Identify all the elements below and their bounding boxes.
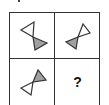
cell-bottom-left — [10, 59, 55, 105]
bowtie-icon — [13, 62, 53, 102]
cell-bottom-right: ? — [55, 59, 100, 105]
bowtie-icon — [13, 16, 53, 56]
cell-top-left — [10, 13, 55, 59]
stray-mark — [18, 0, 20, 2]
cell-top-right — [55, 13, 100, 59]
question-mark: ? — [73, 74, 82, 90]
bowtie-icon — [58, 16, 98, 56]
